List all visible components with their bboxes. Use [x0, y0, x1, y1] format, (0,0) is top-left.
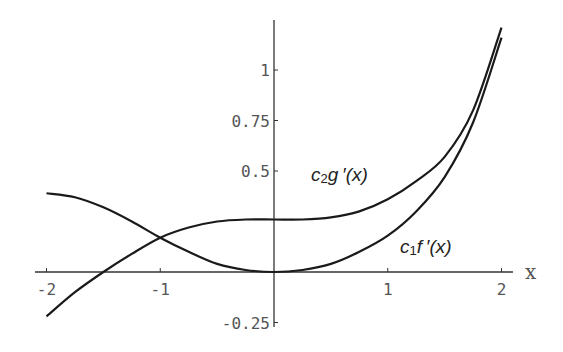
y-tick-label: 0.5	[241, 162, 270, 181]
x-tick-label: 1	[383, 280, 393, 299]
x-tick-label: -2	[37, 280, 56, 299]
x-tick-label: 2	[497, 280, 507, 299]
x-tick-label: -1	[151, 280, 170, 299]
curve-labels: c2g ′(x)c1f ′(x)	[311, 164, 452, 258]
label-c1f-prime: c1f ′(x)	[400, 236, 452, 258]
tick-labels: -2-11210.750.5-0.25	[37, 61, 506, 333]
y-tick-label: 0.75	[231, 112, 270, 131]
plot-area: -2-11210.750.5-0.25 x c2g ′(x)c1f ′(x)	[0, 0, 563, 352]
label-c2g-prime: c2g ′(x)	[311, 164, 368, 186]
y-tick-label: -0.25	[222, 314, 270, 333]
x-axis-label: x	[525, 260, 537, 284]
y-tick-label: 1	[260, 61, 270, 80]
